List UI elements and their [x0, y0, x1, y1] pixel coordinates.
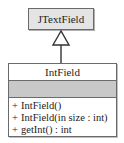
class-name-compartment: IntField [9, 64, 116, 81]
operation-signature: IntField() [21, 100, 61, 111]
class-name-jtextfield: JTextField [38, 13, 84, 25]
operations-compartment: +IntField() +IntField(in size : int) +ge… [9, 98, 116, 136]
class-name-intfield: IntField [45, 66, 80, 78]
operation-signature: IntField(in size : int) [21, 112, 108, 123]
attributes-compartment [9, 81, 116, 98]
visibility-public: + [12, 112, 21, 124]
operation-getint: +getInt() : int [12, 124, 116, 136]
visibility-public: + [12, 124, 21, 136]
operation-constructor-size: +IntField(in size : int) [12, 112, 116, 124]
class-intfield: IntField +IntField() +IntField(in size :… [8, 63, 117, 137]
visibility-public: + [12, 100, 21, 112]
class-jtextfield: JTextField [28, 8, 94, 30]
operation-constructor-default: +IntField() [12, 100, 116, 112]
operation-signature: getInt() : int [21, 124, 72, 135]
